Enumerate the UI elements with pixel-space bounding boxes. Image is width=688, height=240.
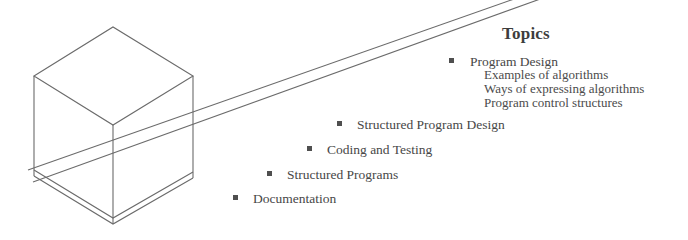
- subtopic-item: Examples of algorithms: [484, 68, 644, 82]
- page-title: Topics: [470, 24, 582, 44]
- cube-top-face: [34, 27, 193, 125]
- topic-item-documentation: Documentation: [233, 191, 336, 207]
- subtopic-list: Examples of algorithms Ways of expressin…: [484, 68, 644, 111]
- bullet-square-icon: [449, 58, 454, 63]
- topic-label: Structured Program Design: [357, 117, 505, 133]
- bullet-square-icon: [233, 195, 238, 200]
- figure-canvas: Topics Program Design Examples of algori…: [0, 0, 688, 240]
- topic-label: Coding and Testing: [327, 142, 432, 158]
- ramp-rails: [28, 0, 543, 182]
- bullet-square-icon: [337, 121, 342, 126]
- topic-item-structured-programs: Structured Programs: [267, 167, 398, 183]
- bullet-square-icon: [307, 146, 312, 151]
- topic-item-structured-program-design: Structured Program Design: [337, 117, 505, 133]
- topic-item-coding-and-testing: Coding and Testing: [307, 142, 432, 158]
- topic-label: Documentation: [253, 191, 336, 207]
- topic-label: Structured Programs: [287, 167, 398, 183]
- cube-body: [34, 76, 193, 218]
- bullet-square-icon: [267, 171, 272, 176]
- subtopic-item: Ways of expressing algorithms: [484, 82, 644, 96]
- subtopic-item: Program control structures: [484, 96, 644, 110]
